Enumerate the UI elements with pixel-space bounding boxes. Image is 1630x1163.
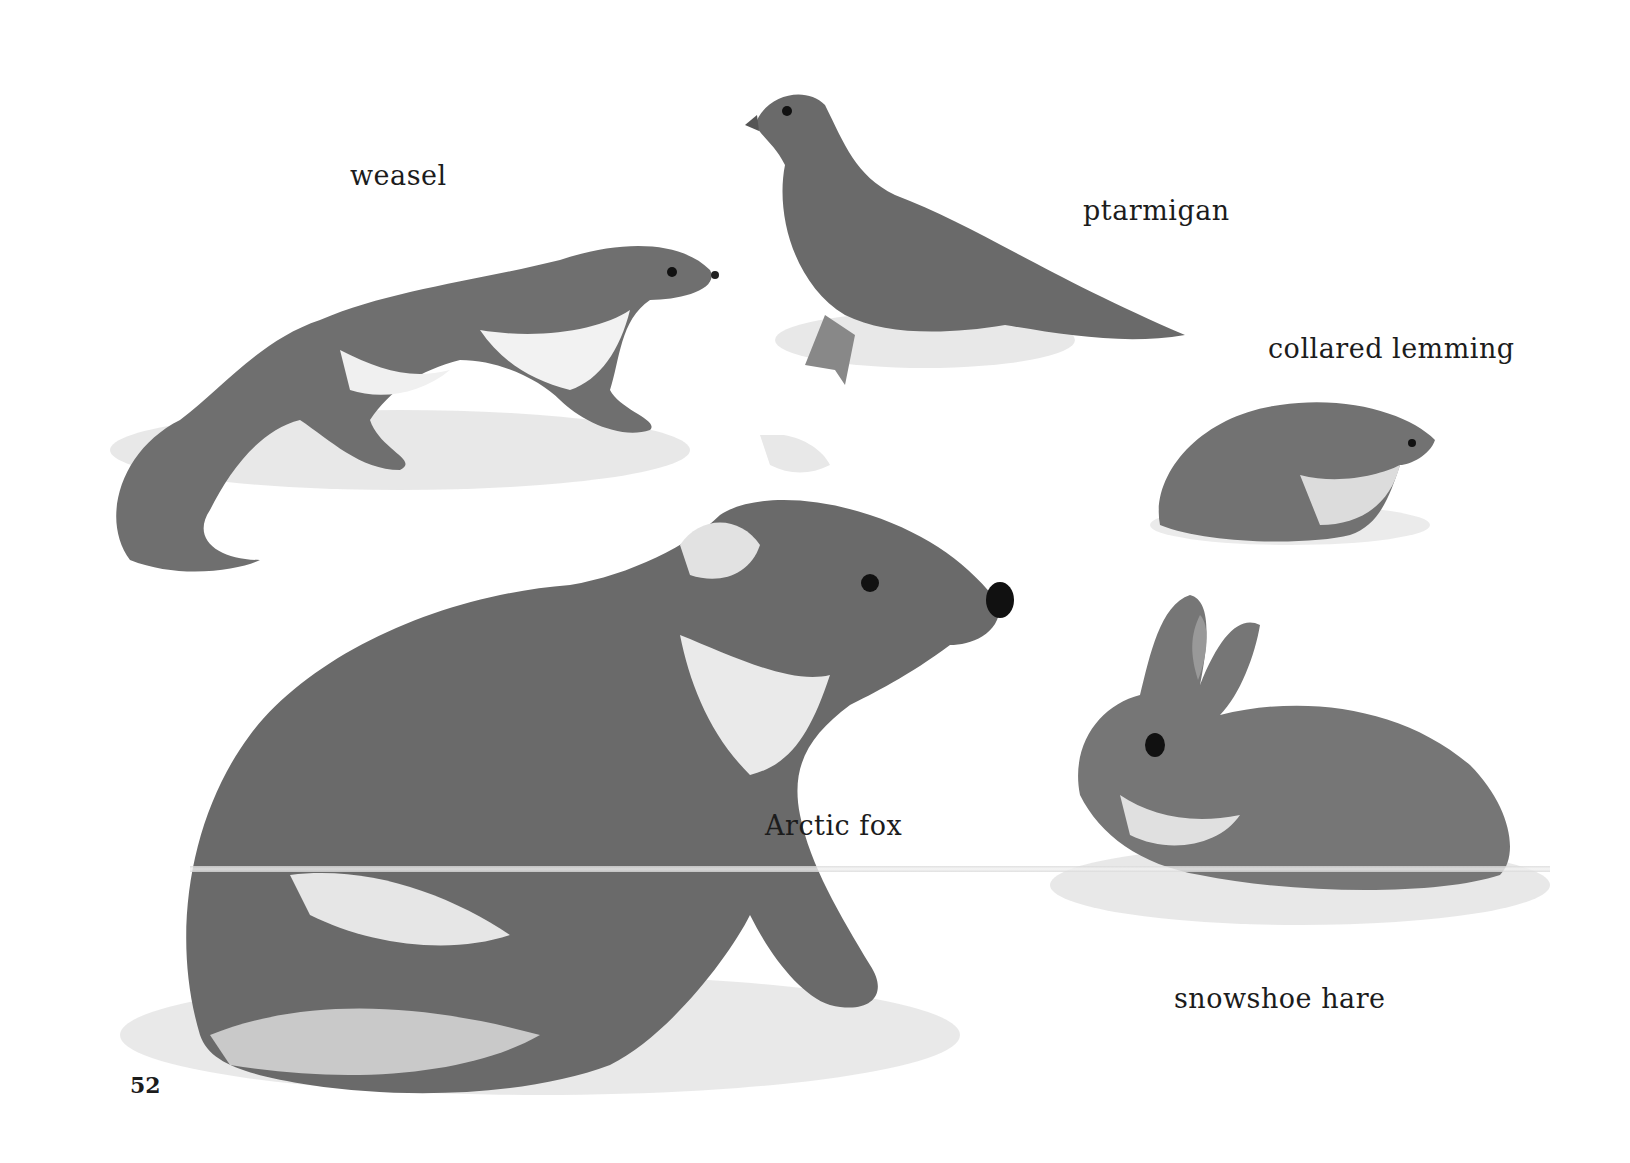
ptarmigan-label: ptarmigan: [1083, 195, 1230, 226]
book-page: weasel ptarmigan collared lemming Arctic…: [0, 0, 1630, 1163]
arctic-fox-label: Arctic fox: [765, 810, 902, 841]
page-fold-line: [190, 866, 1550, 872]
arctic-fox-illustration: [110, 435, 1030, 1115]
collared-lemming-illustration: [1150, 395, 1440, 555]
weasel-label: weasel: [350, 160, 447, 191]
snowshoe-hare-illustration: [1040, 595, 1550, 935]
page-number: 52: [130, 1072, 161, 1098]
collared-lemming-label: collared lemming: [1268, 333, 1515, 364]
ptarmigan-illustration: [745, 85, 1195, 395]
snowshoe-hare-label: snowshoe hare: [1174, 983, 1386, 1014]
